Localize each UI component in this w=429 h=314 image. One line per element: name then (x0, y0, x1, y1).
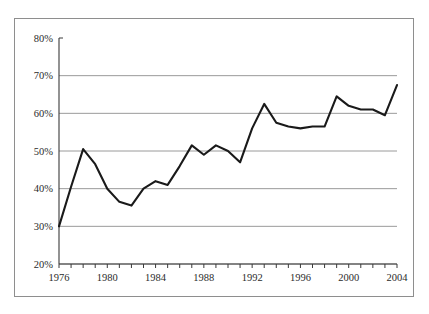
y-axis-tick-label: 70% (34, 70, 54, 81)
data-series-line (59, 85, 397, 226)
line-chart: 20%30%40%50%60%70%80% 197619801984198819… (15, 19, 413, 296)
x-axis-tick-label: 1984 (145, 272, 167, 283)
x-axis-tick-label: 1980 (97, 272, 118, 283)
figure-canvas: 20%30%40%50%60%70%80% 197619801984198819… (0, 0, 429, 314)
y-axis-tick-label: 40% (34, 183, 54, 194)
x-axis-tick-label: 1988 (193, 272, 214, 283)
y-axis-tick-label: 60% (34, 108, 54, 119)
x-axis-tick-label: 2004 (387, 272, 409, 283)
x-axis-tick-labels: 19761980198419881992199620002004 (49, 272, 409, 283)
data-line-group (59, 85, 397, 226)
y-axis-tick-labels: 20%30%40%50%60%70%80% (34, 33, 54, 270)
x-axis-tick-label: 1996 (290, 272, 311, 283)
x-axis-tick-label: 1992 (242, 272, 263, 283)
y-axis-tick-label: 20% (34, 259, 54, 270)
x-axis-ticks (59, 264, 397, 268)
x-axis-tick-label: 1976 (49, 272, 70, 283)
y-axis-tick-label: 50% (34, 146, 54, 157)
chart-frame: 20%30%40%50%60%70%80% 197619801984198819… (14, 18, 414, 297)
y-axis-tick-label: 80% (34, 33, 54, 44)
x-axis-tick-label: 2000 (338, 272, 359, 283)
y-axis-tick-label: 30% (34, 221, 54, 232)
